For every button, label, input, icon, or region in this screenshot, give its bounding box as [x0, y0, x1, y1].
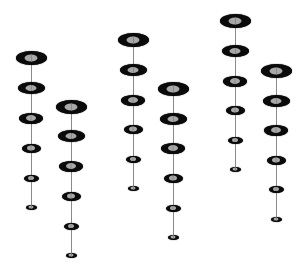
bead [160, 113, 187, 125]
bead [222, 45, 249, 57]
strand-line [31, 58, 32, 207]
bead [263, 95, 290, 107]
bead [24, 175, 39, 182]
bead [126, 156, 141, 163]
bead-core [232, 138, 238, 142]
bead [158, 82, 189, 96]
bead [230, 167, 241, 172]
bead-core [272, 158, 280, 163]
bead [118, 33, 149, 47]
bead-core [130, 157, 136, 161]
strand-line [133, 40, 134, 188]
bead [271, 217, 282, 222]
bead [120, 64, 147, 76]
bead-core [65, 104, 78, 111]
bead [267, 156, 286, 165]
strand-line [173, 89, 174, 237]
bead [26, 205, 37, 210]
bead [220, 14, 251, 28]
bead [18, 82, 45, 94]
bead-core [273, 187, 279, 191]
bead-core [231, 108, 239, 113]
bead [261, 64, 292, 78]
bead [269, 186, 284, 193]
bead [161, 143, 185, 154]
bead [128, 186, 139, 191]
bead-core [128, 67, 139, 73]
bead [168, 235, 179, 240]
bead-core [168, 116, 179, 122]
bead-core [167, 86, 180, 93]
bead [264, 125, 288, 136]
bead [228, 137, 243, 144]
bead-core [129, 127, 137, 132]
bead [64, 223, 79, 230]
bead [58, 130, 85, 142]
bead [121, 95, 145, 106]
bead-core [170, 206, 176, 210]
bead [56, 100, 87, 114]
bead-core [168, 145, 178, 151]
strand-line [235, 21, 236, 169]
bead-core [271, 127, 281, 133]
bead [19, 113, 43, 124]
bead [62, 192, 81, 201]
bead-core [270, 68, 283, 75]
bead-core [274, 218, 279, 221]
bead-core [25, 55, 38, 62]
bead-core [271, 98, 282, 104]
bead-core [230, 48, 241, 54]
bead-core [171, 236, 176, 239]
bead-core [67, 194, 75, 199]
bead-core [26, 115, 36, 121]
bead-core [128, 97, 138, 103]
bead [164, 174, 183, 183]
bead [22, 144, 41, 153]
bead-core [28, 176, 34, 180]
bead-core [169, 176, 177, 181]
bead-core [233, 168, 238, 171]
bead [166, 205, 181, 212]
bead-core [26, 85, 37, 91]
bead-core [69, 254, 74, 257]
bead [66, 253, 77, 258]
bead [16, 51, 47, 65]
bead-core [29, 206, 34, 209]
bead [124, 125, 143, 134]
bead-strands-diagram [0, 0, 306, 272]
bead [226, 106, 245, 115]
bead [223, 76, 247, 87]
strand-line [276, 71, 277, 219]
bead-core [66, 163, 76, 169]
bead-core [131, 187, 136, 190]
bead-core [68, 224, 74, 228]
bead-core [66, 133, 77, 139]
bead-core [27, 146, 35, 151]
bead-core [230, 78, 240, 84]
bead-core [229, 18, 242, 25]
bead [59, 161, 83, 172]
bead-core [127, 37, 140, 44]
